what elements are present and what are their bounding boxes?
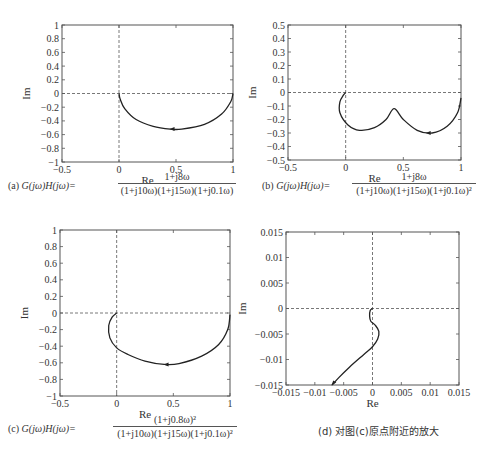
y-tick-label: 0.6: [47, 47, 60, 58]
y-axis-label: Im: [20, 87, 32, 100]
y-tick-label: −0.3: [267, 128, 285, 139]
y-tick-label: 0.1: [273, 74, 286, 85]
y-tick-label: 0: [52, 308, 57, 319]
caption-a-numerator: 1+j8ω: [118, 171, 236, 184]
y-tick-label: −1: [48, 157, 59, 168]
caption-b-fraction: 1+j8ω (1+j10ω)(1+j15ω)(1+j0.1ω)²: [352, 171, 476, 196]
x-tick-label: 0.015: [448, 387, 471, 398]
y-tick-label: −0.5: [267, 155, 285, 166]
y-tick-label: −1: [46, 391, 57, 402]
y-tick-label: −0.4: [39, 341, 57, 352]
caption-c-prefix: (c): [8, 423, 19, 434]
y-tick-label: −0.6: [39, 357, 57, 368]
y-tick-label: 0.5: [273, 20, 286, 31]
y-tick-label: 0.8: [47, 33, 60, 44]
y-tick-label: −0.4: [41, 115, 59, 126]
y-tick-label: 0.2: [45, 291, 58, 302]
caption-c: (c) G(jω)H(jω)=: [8, 423, 76, 434]
y-tick-label: 0.015: [261, 227, 284, 238]
x-tick-label: 0: [114, 398, 119, 409]
y-tick-label: 1: [52, 225, 57, 236]
y-tick-label: −0.4: [267, 141, 285, 152]
y-tick-label: 0.2: [273, 60, 286, 71]
caption-a-fraction: 1+j8ω (1+j10ω)(1+j15ω)(1+j0.1ω): [118, 171, 236, 196]
caption-a-prefix: (a): [8, 180, 19, 191]
x-tick-label: 0.5: [167, 398, 180, 409]
caption-c-denominator: (1+j10ω)(1+j15ω)(1+j0.1ω)²: [113, 427, 237, 439]
x-tick-label: 1: [228, 398, 233, 409]
direction-arrow-icon: [426, 131, 431, 135]
y-tick-label: −0.2: [267, 114, 285, 125]
nyquist-curve: [339, 93, 461, 134]
x-axis-label: Re: [366, 397, 378, 409]
caption-b-denominator: (1+j10ω)(1+j15ω)(1+j0.1ω)²: [352, 184, 476, 196]
y-tick-label: 0.01: [266, 252, 284, 263]
y-tick-label: 0: [280, 87, 285, 98]
direction-arrow-icon: [164, 362, 169, 366]
caption-c-fraction: (1+j0.8ω)² (1+j10ω)(1+j15ω)(1+j0.1ω)²: [113, 414, 237, 439]
y-tick-label: 0: [278, 303, 283, 314]
x-tick-label: 0.005: [390, 387, 413, 398]
y-tick-label: −0.6: [41, 129, 59, 140]
direction-arrow-icon: [170, 127, 175, 131]
y-tick-label: −0.005: [255, 329, 283, 340]
x-tick-label: −0.005: [330, 387, 358, 398]
x-tick-label: 0: [343, 162, 348, 173]
plot-c: −0.500.5110.80.60.40.20−0.2−0.4−0.6−0.8−…: [18, 225, 233, 421]
caption-b-lhs: G(jω)H(jω)=: [276, 180, 330, 191]
y-tick-label: −0.2: [39, 324, 57, 335]
y-tick-label: −0.01: [260, 354, 283, 365]
caption-b-prefix: (b): [262, 180, 274, 191]
y-tick-label: 0.4: [273, 33, 286, 44]
caption-c-lhs: G(jω)H(jω)=: [22, 423, 76, 434]
y-axis-label: Im: [236, 302, 248, 315]
y-tick-label: 1: [54, 20, 59, 31]
y-axis-label: Im: [246, 86, 258, 99]
y-tick-label: 0.005: [261, 278, 284, 289]
caption-b: (b) G(jω)H(jω)=: [262, 180, 330, 191]
x-tick-label: 0.01: [421, 387, 439, 398]
y-tick-label: 0.4: [45, 274, 58, 285]
caption-d: (d) 对图(c)原点附近的放大: [318, 423, 439, 438]
x-tick-label: −0.01: [303, 387, 326, 398]
nyquist-curve: [109, 313, 230, 365]
y-tick-label: −0.2: [41, 102, 59, 113]
y-tick-label: 0.2: [47, 74, 60, 85]
caption-a-lhs: G(jω)H(jω)=: [22, 180, 76, 191]
plot-d: −0.015−0.01−0.00500.0050.010.0150.0150.0…: [236, 227, 470, 410]
nyquist-curve: [119, 94, 233, 130]
y-tick-label: 0.8: [45, 241, 58, 252]
caption-a-denominator: (1+j10ω)(1+j15ω)(1+j0.1ω): [118, 184, 236, 196]
y-tick-label: −0.8: [41, 143, 59, 154]
y-tick-label: 0.6: [45, 258, 58, 269]
figure-canvas: −0.500.5110.80.60.40.20−0.2−0.4−0.6−0.8−…: [0, 0, 487, 467]
y-tick-label: 0: [54, 88, 59, 99]
y-axis-label: Im: [18, 306, 30, 319]
y-tick-label: −0.1: [267, 101, 285, 112]
caption-c-numerator: (1+j0.8ω)²: [113, 414, 237, 427]
caption-b-numerator: 1+j8ω: [352, 171, 476, 184]
y-tick-label: 0.4: [47, 61, 60, 72]
y-tick-label: −0.015: [255, 380, 283, 391]
y-tick-label: −0.8: [39, 374, 57, 385]
caption-a: (a) G(jω)H(jω)=: [8, 180, 76, 191]
plot-a: −0.500.5110.80.60.40.20−0.2−0.4−0.6−0.8−…: [20, 20, 236, 187]
y-tick-label: 0.3: [273, 47, 286, 58]
nyquist-curve: [332, 309, 379, 386]
plot-b: −0.500.510.50.40.30.20.10−0.1−0.2−0.3−0.…: [246, 20, 464, 185]
